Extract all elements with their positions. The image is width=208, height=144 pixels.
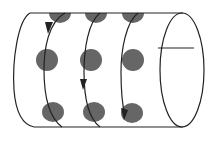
dot [122,49,144,71]
solenoid-diagram [0,0,208,144]
dot [42,102,64,122]
dots-group [36,3,144,123]
wire-loop-left [14,13,34,127]
diagram-canvas [0,0,208,144]
cylinder-end-cap [160,13,204,127]
dot [80,49,102,71]
dot [83,102,105,122]
arrow-down-icon [80,79,87,90]
outline-group [14,13,204,127]
dot [36,49,58,71]
